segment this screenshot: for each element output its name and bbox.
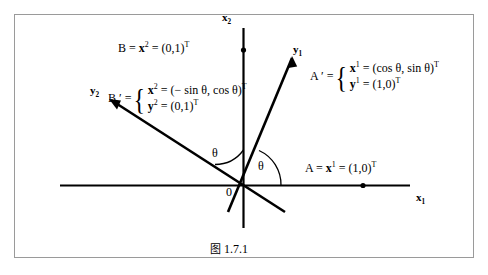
frame-a-prime-row-2: y1 = (1,0)T xyxy=(350,78,439,92)
frame-b-prime-rows: x2 = (− sin θ, cos θ)T y2 = (0,1)T xyxy=(148,84,247,114)
point-b-marker xyxy=(241,47,246,52)
point-b-value: (0,1) xyxy=(162,41,185,55)
frame-a-prime-row-1-transpose: T xyxy=(434,60,439,69)
frame-b-prime-row-2-equals: = xyxy=(158,99,171,113)
axis-label-x2: x2 xyxy=(222,12,231,24)
frame-b-prime-row-2-value: (0,1) xyxy=(171,99,194,113)
frame-b-prime-label: B ′ = xyxy=(108,91,131,106)
frame-b-prime-group: B ′ = { x2 = (− sin θ, cos θ)T y2 = (0,1… xyxy=(108,84,247,114)
point-a-lead: A = xyxy=(305,161,326,175)
axis-label-y2: y2 xyxy=(90,85,99,97)
axis-label-x2-sub: 2 xyxy=(228,18,232,26)
point-b-transpose: T xyxy=(185,40,190,49)
theta-label-right: θ xyxy=(258,160,264,173)
figure-caption-number: 1.7.1 xyxy=(224,242,248,256)
frame-b-prime-row-2-transpose: T xyxy=(194,98,199,107)
y2-axis-line xyxy=(111,100,285,212)
y1-axis-line xyxy=(228,58,292,212)
theta-arc-left xyxy=(215,150,244,165)
point-a-transpose: T xyxy=(372,160,377,169)
frame-a-prime-row-1-value: (cos θ, sin θ) xyxy=(373,61,435,75)
frame-a-prime-row-2-value: (1,0) xyxy=(373,77,396,91)
frame-b-prime-row-2: y2 = (0,1)T xyxy=(148,100,247,114)
axis-label-x1-sub: 1 xyxy=(422,198,426,206)
frame-b-prime-row-1-equals: = xyxy=(158,83,171,97)
frame-a-prime-rows: x1 = (cos θ, sin θ)T y1 = (1,0)T xyxy=(350,62,439,92)
origin-label: 0 xyxy=(226,186,232,199)
frame-b-prime-row-1: x2 = (− sin θ, cos θ)T xyxy=(148,84,247,98)
figure-caption-symbol: 图 xyxy=(210,243,221,256)
left-brace-icon: { xyxy=(336,65,348,88)
axis-label-y2-sub: 2 xyxy=(96,91,100,99)
frame-b-prime-row-1-value: (− sin θ, cos θ) xyxy=(171,83,242,97)
axis-label-y1: y1 xyxy=(293,44,302,56)
frame-b-prime-row-1-transpose: T xyxy=(242,82,247,91)
frame-a-prime-row-2-transpose: T xyxy=(396,76,401,85)
figure-page: x2 x1 y1 y2 0 θ θ B = x2 = (0,1)T A = x1… xyxy=(0,0,488,275)
point-a-label: A = x1 = (1,0)T xyxy=(305,162,376,175)
point-a-value: (1,0) xyxy=(349,161,372,175)
figure-caption: 图 1.7.1 xyxy=(210,240,248,257)
frame-a-prime-group: A ′ = { x1 = (cos θ, sin θ)T y1 = (1,0)T xyxy=(310,62,439,92)
point-b-lead: B = xyxy=(118,41,139,55)
frame-a-prime-row-1-equals: = xyxy=(360,61,373,75)
coordinate-diagram xyxy=(0,0,488,275)
frame-a-prime-row-1: x1 = (cos θ, sin θ)T xyxy=(350,62,439,76)
left-brace-icon: { xyxy=(134,87,146,110)
axis-label-x1: x1 xyxy=(416,192,425,204)
point-b-label: B = x2 = (0,1)T xyxy=(118,42,189,55)
frame-a-prime-label: A ′ = xyxy=(310,69,333,84)
point-a-marker xyxy=(360,183,365,188)
axis-label-y1-sub: 1 xyxy=(299,50,303,58)
point-a-equals: = xyxy=(336,161,349,175)
point-b-equals: = xyxy=(149,41,162,55)
theta-label-left: θ xyxy=(212,147,218,160)
frame-a-prime-row-2-equals: = xyxy=(360,77,373,91)
